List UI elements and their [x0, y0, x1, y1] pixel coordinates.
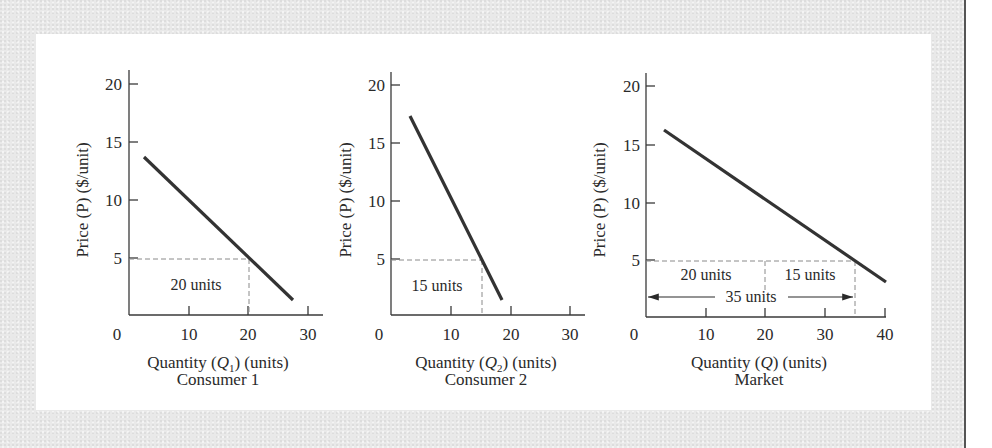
y-axis: [129, 70, 138, 315]
y-tick-labels: 20 15 10 5: [623, 77, 640, 270]
quantity-annotation: 15 units: [411, 277, 462, 294]
y-tick-labels: 20 15 10 5: [105, 75, 122, 268]
x-tick-label: 20: [240, 325, 257, 344]
x-tick-label: 0: [630, 325, 639, 344]
x-tick-label: 20: [503, 325, 520, 344]
chart-caption: Consumer 1: [177, 370, 260, 389]
x-tick-label: 0: [375, 325, 384, 344]
x-axis: [646, 308, 886, 317]
x-tick-label: 0: [113, 325, 122, 344]
y-tick-label: 5: [114, 249, 123, 268]
y-tick-label: 10: [623, 194, 640, 213]
x-tick-label: 20: [757, 325, 774, 344]
y-tick-label: 15: [105, 133, 122, 152]
y-tick-label: 15: [368, 134, 385, 153]
y-tick-label: 5: [377, 250, 386, 269]
y-axis-title: Price (P) ($/unit): [336, 142, 355, 257]
x-tick-labels: 0 10 20 30: [113, 325, 317, 344]
y-tick-label: 20: [105, 75, 122, 94]
y-axis-title: Price (P) ($/unit): [590, 142, 609, 257]
x-axis: [391, 306, 585, 315]
chart-consumer-1: 20 15 10 5 0 10 20 30 20 units Price (P)…: [73, 70, 323, 389]
x-tick-labels: 0 10 20 30 40: [630, 325, 894, 344]
y-tick-label: 15: [623, 136, 640, 155]
x-tick-label: 10: [181, 325, 198, 344]
y-tick-labels: 20 15 10 5: [368, 76, 385, 269]
x-tick-label: 30: [817, 325, 834, 344]
y-tick-label: 5: [632, 251, 641, 270]
total-quantity-arrow: 35 units: [648, 288, 853, 305]
y-axis: [646, 73, 655, 317]
chart-caption: Market: [734, 370, 783, 389]
chart-caption: Consumer 2: [445, 370, 528, 389]
x-tick-label: 40: [877, 325, 894, 344]
quantity-annotation-total: 35 units: [725, 288, 776, 305]
x-tick-labels: 0 10 20 30: [375, 325, 579, 344]
x-axis: [129, 306, 323, 315]
chart-market: 20 15 10 5 0 10 20 30 40 20 units 15 uni…: [590, 73, 894, 389]
quantity-annotation-consumer-2: 15 units: [784, 266, 835, 283]
quantity-annotation: 20 units: [170, 276, 221, 293]
demand-curve-d2: [410, 116, 502, 300]
y-tick-label: 10: [368, 192, 385, 211]
x-tick-label: 10: [443, 325, 460, 344]
quantity-annotation-consumer-1: 20 units: [680, 266, 731, 283]
x-tick-label: 30: [562, 325, 579, 344]
figure-svg: 20 15 10 5 0 10 20 30 20 units Price (P)…: [0, 0, 992, 448]
market-demand-curve: [664, 130, 886, 282]
chart-consumer-2: 20 15 10 5 0 10 20 30 15 units Price (P)…: [336, 72, 585, 389]
x-tick-label: 10: [698, 325, 715, 344]
y-tick-label: 20: [368, 76, 385, 95]
y-tick-label: 10: [105, 191, 122, 210]
y-tick-label: 20: [623, 77, 640, 96]
y-axis: [391, 72, 400, 315]
x-tick-label: 30: [300, 325, 317, 344]
y-axis-title: Price (P) ($/unit): [73, 142, 92, 257]
